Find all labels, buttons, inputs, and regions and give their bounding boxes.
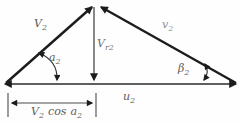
diagram-canvas: V2 v2 Vr2 u2 a2 β2 V2cosa2 (0, 0, 241, 123)
radial-component-label: Vr2 (97, 37, 114, 52)
absolute-velocity-vector (6, 7, 92, 83)
absolute-velocity-label: V2 (34, 17, 47, 32)
relative-velocity-label: v2 (162, 18, 173, 33)
relative-velocity-vector (101, 7, 236, 83)
dimension-label: V2cosa2 (31, 105, 82, 120)
beta-angle-label: β2 (177, 62, 189, 77)
alpha-angle-label: a2 (49, 51, 61, 66)
blade-velocity-label: u2 (123, 90, 135, 105)
velocity-triangle-diagram: V2 v2 Vr2 u2 a2 β2 V2cosa2 (0, 0, 241, 123)
